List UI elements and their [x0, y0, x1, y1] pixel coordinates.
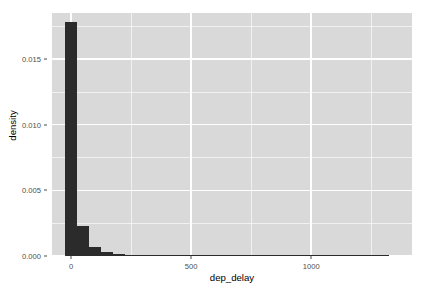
gridline-major-horizontal: [52, 124, 412, 126]
y-axis-tick-mark: [44, 256, 47, 257]
x-axis-tick-mark: [311, 256, 312, 259]
x-axis-tick-label: 0: [69, 262, 73, 271]
gridline-minor-vertical: [131, 13, 132, 256]
histogram-bar: [65, 22, 77, 256]
histogram-bar: [89, 247, 101, 256]
y-axis-tick-label: 0.005: [22, 186, 41, 195]
y-axis-tick-label: 0.010: [22, 120, 41, 129]
gridline-major-vertical: [190, 13, 192, 256]
gridline-minor-vertical: [251, 13, 252, 256]
plot-panel: [52, 13, 412, 256]
gridline-major-horizontal: [52, 190, 412, 192]
y-axis-label: density: [7, 86, 18, 166]
x-axis-tick-mark: [191, 256, 192, 259]
histogram-bar: [77, 226, 89, 256]
histogram-plot: 0.0000.0050.0100.015 05001000 dep_delay …: [0, 0, 427, 299]
gridline-major-vertical: [310, 13, 312, 256]
gridline-minor-horizontal: [52, 92, 412, 93]
y-axis-tick-mark: [44, 58, 47, 59]
y-axis-tick-label: 0.000: [22, 252, 41, 261]
gridline-major-horizontal: [52, 58, 412, 60]
gridline-minor-horizontal: [52, 26, 412, 27]
x-axis-tick-label: 1000: [303, 262, 320, 271]
gridline-minor-horizontal: [52, 157, 412, 158]
y-axis-tick-mark: [44, 190, 47, 191]
gridline-minor-vertical: [371, 13, 372, 256]
y-axis-tick-label: 0.015: [22, 54, 41, 63]
gridline-minor-horizontal: [52, 223, 412, 224]
x-axis-tick-label: 500: [185, 262, 198, 271]
x-axis-label: dep_delay: [52, 272, 412, 283]
y-axis-tick-mark: [44, 124, 47, 125]
x-axis-tick-mark: [71, 256, 72, 259]
